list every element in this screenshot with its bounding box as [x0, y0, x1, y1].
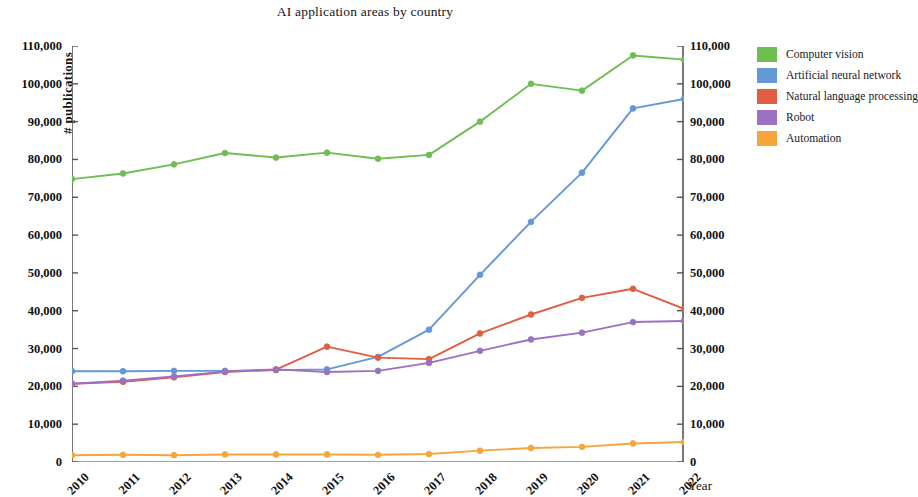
- legend-item-4[interactable]: Automation: [757, 129, 917, 149]
- y-axis-tick-label-right: 110,000: [690, 40, 730, 53]
- series-marker-2: [375, 355, 381, 361]
- y-axis-tick-label-left: 110,000: [0, 40, 62, 53]
- series-marker-3: [630, 319, 636, 325]
- y-axis-tick-label-left: 0: [0, 456, 62, 469]
- y-axis-tick-label-left: 40,000: [0, 304, 62, 317]
- y-axis-tick-label-right: 90,000: [690, 115, 724, 128]
- series-marker-0: [630, 53, 636, 59]
- chart-legend: Computer visionArtificial neural network…: [757, 45, 917, 150]
- series-marker-3: [120, 378, 126, 384]
- series-marker-3: [222, 369, 228, 375]
- series-marker-0: [528, 81, 534, 87]
- series-marker-0: [72, 176, 75, 182]
- y-axis-tick-label-left: 50,000: [0, 267, 62, 280]
- series-marker-0: [171, 161, 177, 167]
- series-marker-1: [579, 170, 585, 176]
- y-axis-tick-label-left: 80,000: [0, 153, 62, 166]
- y-axis-tick-label-right: 50,000: [690, 267, 724, 280]
- series-marker-0: [375, 156, 381, 162]
- series-marker-3: [72, 381, 75, 387]
- plot-area: [72, 46, 684, 462]
- series-marker-4: [120, 452, 126, 458]
- series-marker-1: [477, 272, 483, 278]
- series-marker-4: [426, 451, 432, 457]
- series-marker-3: [681, 318, 684, 324]
- series-marker-1: [120, 368, 126, 374]
- series-line-3: [72, 321, 684, 384]
- series-marker-1: [426, 327, 432, 333]
- legend-item-label: Robot: [786, 112, 814, 124]
- legend-item-3[interactable]: Robot: [757, 108, 917, 128]
- legend-item-1[interactable]: Artificial neural network: [757, 66, 917, 86]
- legend-swatch-icon: [757, 110, 777, 125]
- y-axis-tick-label-left: 30,000: [0, 342, 62, 355]
- series-marker-3: [477, 348, 483, 354]
- y-axis-tick-label-left: 70,000: [0, 191, 62, 204]
- series-marker-1: [630, 106, 636, 112]
- plot-svg: [72, 46, 684, 462]
- y-axis-tick-label-right: 0: [690, 456, 696, 469]
- series-marker-4: [72, 452, 75, 458]
- legend-swatch-icon: [757, 47, 777, 62]
- y-axis-tick-label-right: 20,000: [690, 380, 724, 393]
- legend-swatch-icon: [757, 131, 777, 146]
- y-axis-tick-label-right: 10,000: [690, 418, 724, 431]
- y-axis-tick-label-right: 60,000: [690, 229, 724, 242]
- series-marker-4: [324, 452, 330, 458]
- series-marker-3: [579, 330, 585, 336]
- series-marker-2: [477, 331, 483, 337]
- chart-title: AI application areas by country: [0, 4, 730, 20]
- legend-item-0[interactable]: Computer vision: [757, 45, 917, 65]
- series-marker-4: [528, 445, 534, 451]
- series-marker-3: [324, 369, 330, 375]
- series-marker-1: [171, 368, 177, 374]
- series-marker-3: [528, 337, 534, 343]
- chart-figure: AI application areas by country # public…: [0, 0, 918, 497]
- legend-item-2[interactable]: Natural language processing: [757, 87, 917, 107]
- series-marker-1: [681, 96, 684, 102]
- legend-item-label: Automation: [786, 133, 841, 145]
- series-marker-4: [222, 452, 228, 458]
- series-marker-4: [477, 448, 483, 454]
- y-axis-tick-label-right: 30,000: [690, 342, 724, 355]
- series-marker-3: [171, 374, 177, 380]
- series-marker-1: [528, 219, 534, 225]
- legend-swatch-icon: [757, 89, 777, 104]
- axes: [72, 46, 684, 462]
- data-series-group: [72, 53, 684, 459]
- series-marker-4: [579, 444, 585, 450]
- series-marker-3: [426, 360, 432, 366]
- y-axis-tick-label-right: 100,000: [690, 78, 731, 91]
- legend-item-label: Artificial neural network: [786, 70, 901, 82]
- y-axis-tick-label-left: 10,000: [0, 418, 62, 431]
- y-axis-tick-label-left: 90,000: [0, 115, 62, 128]
- series-marker-2: [324, 344, 330, 350]
- legend-item-label: Natural language processing: [786, 91, 918, 103]
- y-axis-tick-label-right: 40,000: [690, 304, 724, 317]
- series-marker-2: [579, 295, 585, 301]
- y-axis-tick-label-left: 60,000: [0, 229, 62, 242]
- series-marker-4: [273, 452, 279, 458]
- y-axis-tick-label-right: 70,000: [690, 191, 724, 204]
- y-axis-tick-label-right: 80,000: [690, 153, 724, 166]
- series-marker-0: [426, 152, 432, 158]
- series-marker-2: [528, 312, 534, 318]
- series-marker-2: [630, 286, 636, 292]
- series-marker-2: [681, 306, 684, 312]
- legend-swatch-icon: [757, 68, 777, 83]
- series-marker-3: [375, 368, 381, 374]
- series-marker-0: [681, 57, 684, 63]
- series-marker-0: [324, 150, 330, 156]
- series-marker-0: [477, 119, 483, 125]
- x-axis-tick-label: 2010: [11, 470, 92, 497]
- series-marker-4: [375, 452, 381, 458]
- series-marker-0: [273, 155, 279, 161]
- series-marker-4: [171, 452, 177, 458]
- legend-item-label: Computer vision: [786, 49, 864, 61]
- y-axis-tick-label-left: 20,000: [0, 380, 62, 393]
- series-marker-3: [273, 366, 279, 372]
- series-marker-1: [72, 368, 75, 374]
- series-marker-0: [579, 88, 585, 94]
- series-marker-0: [222, 150, 228, 156]
- series-marker-0: [120, 171, 126, 177]
